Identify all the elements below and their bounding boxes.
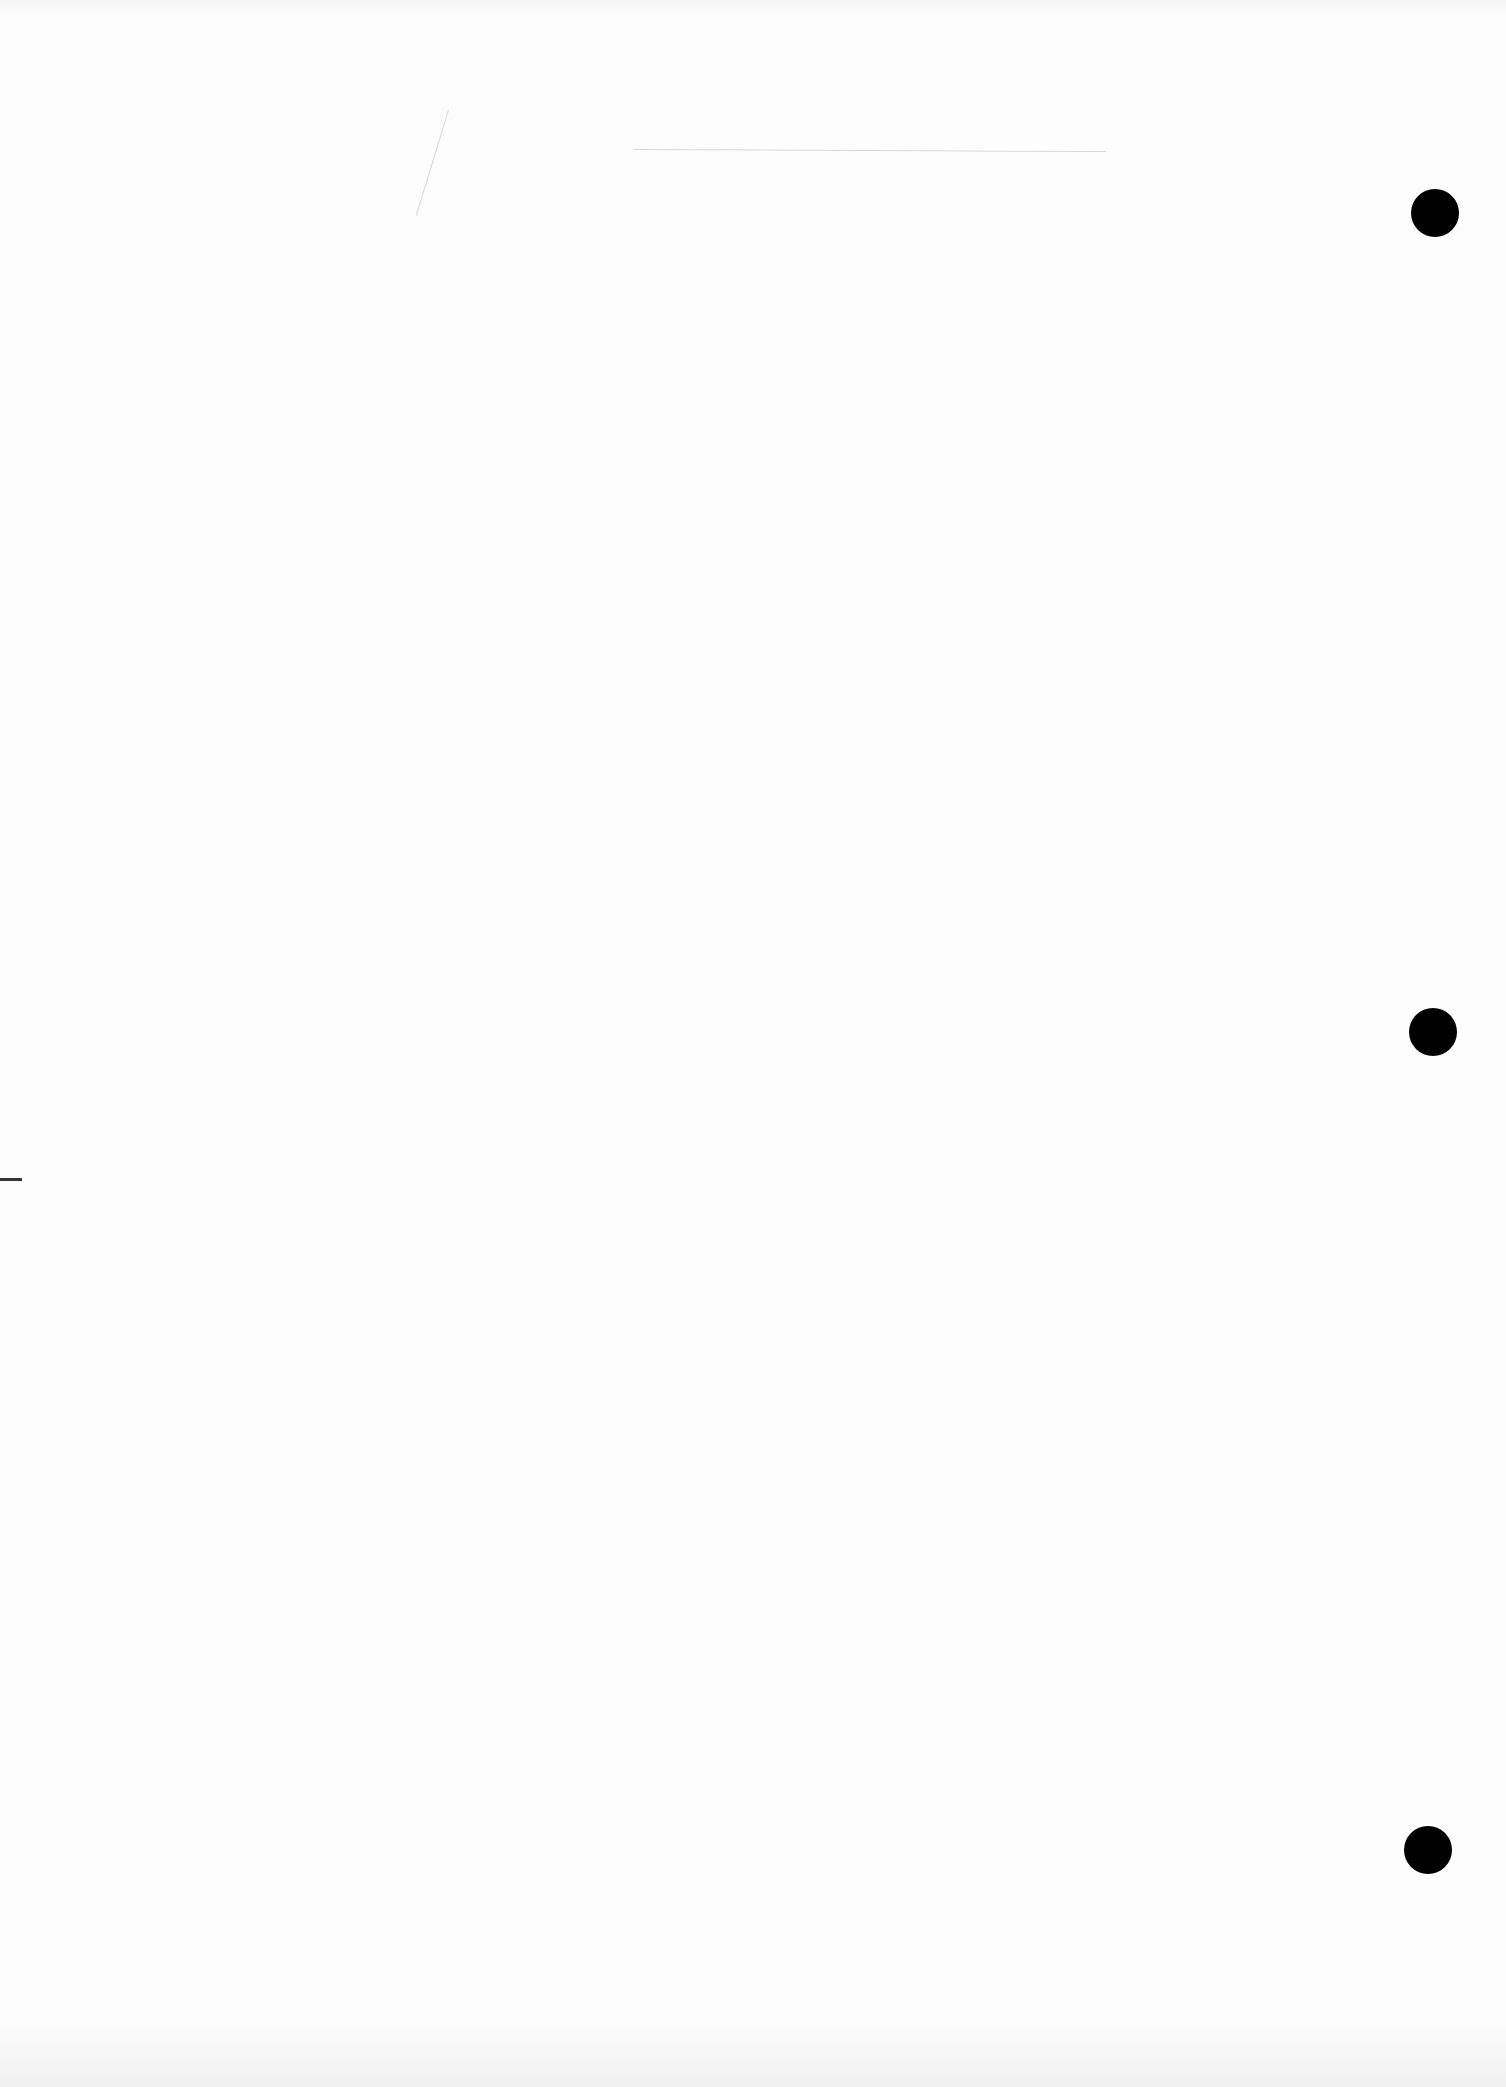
pencil-mark [416, 110, 449, 215]
punch-hole-top [1411, 189, 1459, 237]
edge-mark [0, 1178, 22, 1181]
punch-hole-middle [1409, 1008, 1457, 1056]
scanned-page [0, 0, 1506, 2087]
punch-hole-bottom [1404, 1826, 1452, 1874]
horizontal-rule [634, 149, 1106, 152]
